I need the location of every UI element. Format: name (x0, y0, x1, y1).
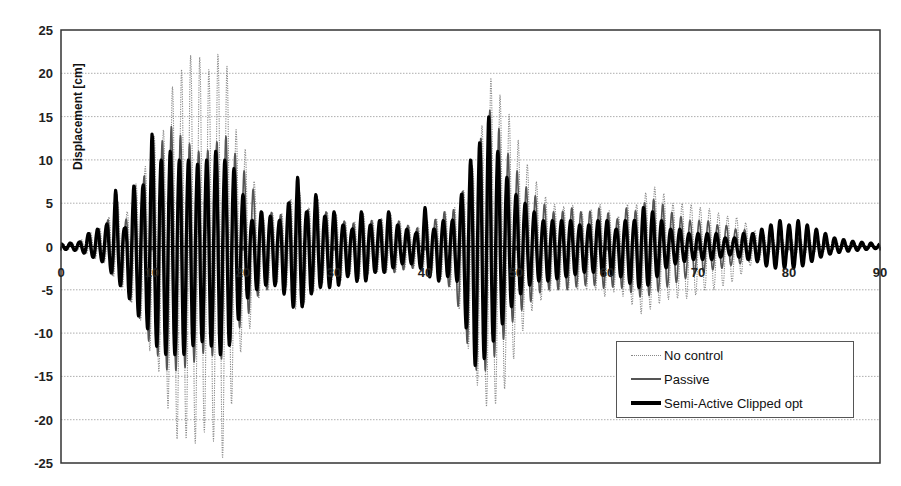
no-control-line-swatch (631, 355, 661, 356)
legend: No control Passive Semi-Active Clipped o… (616, 341, 854, 418)
legend-label: Semi-Active Clipped opt (664, 396, 803, 411)
legend-item-no-control: No control (617, 344, 723, 366)
y-tick-label: 0 (46, 240, 53, 255)
x-tick-label: 90 (873, 265, 887, 280)
legend-label: Passive (664, 372, 710, 387)
y-tick-label: -20 (34, 413, 53, 428)
y-tick-label: 15 (39, 110, 53, 125)
y-axis-ticks: 2520151050-5-10-15-20-25 (34, 23, 53, 471)
x-tick-label: 30 (327, 265, 341, 280)
x-tick-label: 80 (782, 265, 796, 280)
y-tick-label: -25 (34, 456, 53, 471)
y-tick-label: -10 (34, 326, 53, 341)
x-tick-label: 0 (57, 265, 64, 280)
x-tick-label: 20 (236, 265, 250, 280)
legend-item-passive: Passive (617, 368, 710, 390)
x-tick-label: 70 (691, 265, 705, 280)
x-tick-label: 40 (418, 265, 432, 280)
x-tick-label: 50 (509, 265, 523, 280)
y-tick-label: 10 (39, 153, 53, 168)
y-tick-label: 20 (39, 66, 53, 81)
semi-active-line-swatch (631, 401, 661, 405)
y-tick-label: 5 (46, 196, 53, 211)
y-tick-label: -5 (41, 283, 53, 298)
y-tick-label: 25 (39, 23, 53, 38)
y-axis-label: Displacement [cm] (71, 63, 85, 170)
x-tick-label: 10 (145, 265, 159, 280)
passive-line-swatch (631, 378, 661, 380)
x-tick-label: 60 (600, 265, 614, 280)
y-tick-label: -15 (34, 369, 53, 384)
legend-label: No control (664, 348, 723, 363)
legend-item-semi-active: Semi-Active Clipped opt (617, 392, 803, 414)
